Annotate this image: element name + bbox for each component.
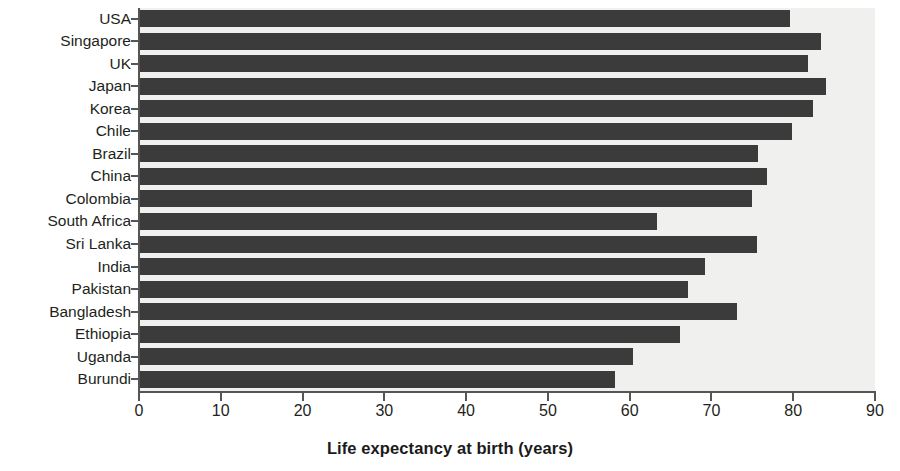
x-axis-tick bbox=[138, 393, 140, 401]
x-axis-tick bbox=[629, 393, 631, 401]
bar bbox=[139, 371, 615, 388]
x-axis-tick bbox=[302, 393, 304, 401]
x-axis-tick bbox=[710, 393, 712, 401]
x-axis-line bbox=[138, 391, 876, 393]
y-axis-tick bbox=[131, 40, 139, 42]
x-axis-tick bbox=[383, 393, 385, 401]
y-axis-tick-label: Pakistan bbox=[1, 281, 131, 297]
bar bbox=[139, 168, 767, 185]
y-axis-tick-label: Brazil bbox=[1, 146, 131, 162]
y-axis-tick-label: Bangladesh bbox=[1, 304, 131, 320]
y-axis-tick-label: Uganda bbox=[1, 349, 131, 365]
x-axis-tick-label: 20 bbox=[294, 403, 312, 419]
y-axis-tick-label: Burundi bbox=[1, 371, 131, 387]
y-axis-tick-label: South Africa bbox=[1, 213, 131, 229]
x-axis-tick-label: 0 bbox=[135, 403, 144, 419]
bar bbox=[139, 33, 821, 50]
bar bbox=[139, 213, 657, 230]
bar bbox=[139, 145, 758, 162]
bar bbox=[139, 190, 752, 207]
bar bbox=[139, 258, 705, 275]
bar bbox=[139, 100, 813, 117]
y-axis-tick-label: China bbox=[1, 168, 131, 184]
y-axis-tick bbox=[131, 356, 139, 358]
x-axis-tick-label: 30 bbox=[375, 403, 393, 419]
bar bbox=[139, 10, 790, 27]
y-axis-tick bbox=[131, 130, 139, 132]
y-axis-tick bbox=[131, 63, 139, 65]
x-axis-tick-label: 70 bbox=[703, 403, 721, 419]
bar bbox=[139, 78, 826, 95]
y-axis-tick bbox=[131, 153, 139, 155]
bar bbox=[139, 348, 633, 365]
y-axis-tick bbox=[131, 333, 139, 335]
x-axis-tick bbox=[465, 393, 467, 401]
y-axis-tick bbox=[131, 198, 139, 200]
y-axis-tick bbox=[131, 85, 139, 87]
y-axis-tick-label: Korea bbox=[1, 101, 131, 117]
y-axis-tick bbox=[131, 108, 139, 110]
x-axis-tick-label: 80 bbox=[784, 403, 802, 419]
x-axis-tick bbox=[547, 393, 549, 401]
y-axis-tick-label: Chile bbox=[1, 123, 131, 139]
y-axis-tick-label: Sri Lanka bbox=[1, 236, 131, 252]
x-axis-tick-label: 60 bbox=[621, 403, 639, 419]
y-axis-tick-label: Japan bbox=[1, 78, 131, 94]
x-axis-tick-label: 10 bbox=[212, 403, 230, 419]
x-axis-tick bbox=[874, 393, 876, 401]
x-axis-tick bbox=[220, 393, 222, 401]
y-axis-tick bbox=[131, 266, 139, 268]
y-axis-tick bbox=[131, 18, 139, 20]
y-axis-tick-label: Ethiopia bbox=[1, 326, 131, 342]
x-axis-tick-label: 90 bbox=[866, 403, 884, 419]
x-axis-tick bbox=[792, 393, 794, 401]
y-axis-tick bbox=[131, 243, 139, 245]
y-axis-labels: USASingaporeUKJapanKoreaChileBrazilChina… bbox=[0, 0, 131, 471]
y-axis-tick-label: Colombia bbox=[1, 191, 131, 207]
y-axis-tick-label: Singapore bbox=[1, 33, 131, 49]
bar bbox=[139, 281, 688, 298]
y-axis-tick-label: UK bbox=[1, 56, 131, 72]
bar bbox=[139, 55, 808, 72]
bar bbox=[139, 303, 737, 320]
y-axis-tick-label: USA bbox=[1, 11, 131, 27]
x-axis-title: Life expectancy at birth (years) bbox=[0, 439, 900, 458]
y-axis-tick bbox=[131, 378, 139, 380]
plot-area bbox=[139, 8, 875, 391]
y-axis-tick bbox=[131, 220, 139, 222]
y-axis-tick bbox=[131, 175, 139, 177]
y-axis-tick bbox=[131, 288, 139, 290]
bar bbox=[139, 123, 792, 140]
y-axis-tick bbox=[131, 311, 139, 313]
x-axis-tick-label: 50 bbox=[539, 403, 557, 419]
bar bbox=[139, 236, 757, 253]
life-expectancy-bar-chart: USASingaporeUKJapanKoreaChileBrazilChina… bbox=[0, 0, 900, 471]
y-axis-tick-label: India bbox=[1, 259, 131, 275]
bar bbox=[139, 326, 680, 343]
x-axis-tick-label: 40 bbox=[457, 403, 475, 419]
